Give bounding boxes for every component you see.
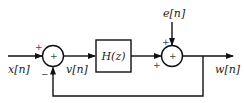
- transfer-function-block: H(z): [96, 40, 131, 72]
- summer1: +: [43, 46, 64, 67]
- disturbance-label: e[n]: [163, 7, 186, 20]
- summer1-minus-sign: −: [41, 69, 49, 79]
- input-label: x[n]: [8, 63, 31, 76]
- output-label: w[n]: [215, 63, 241, 76]
- v-label: v[n]: [66, 63, 89, 76]
- summer2: +: [162, 46, 183, 67]
- block-label: H(z): [101, 50, 126, 63]
- block-diagram: x[n] + + − v[n] H(z) + e[n] + + w[n]: [0, 0, 244, 103]
- summer1-center-symbol: +: [50, 51, 58, 61]
- summer2-center-symbol: +: [169, 51, 177, 61]
- summer1-plus-sign: +: [35, 42, 43, 52]
- summer2-left-plus-sign: +: [153, 60, 161, 70]
